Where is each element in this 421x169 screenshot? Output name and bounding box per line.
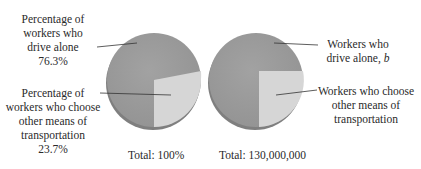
right-label-drive-alone: Workers who drive alone, b xyxy=(318,37,398,65)
left-total: Total: 100% xyxy=(128,149,184,161)
right-pie xyxy=(208,33,318,130)
right-total: Total: 130,000,000 xyxy=(219,149,306,161)
variable-b: b xyxy=(384,52,390,64)
left-pie-minor-slice xyxy=(154,78,201,127)
right-pie-minor-slice xyxy=(259,71,304,127)
left-drive-alone-percent: 76.3% xyxy=(8,54,98,68)
left-label-other-means: Percentage of workers who choose other m… xyxy=(0,86,108,156)
right-label-other-means: Workers who choose other means of transp… xyxy=(312,84,420,126)
left-pie xyxy=(97,33,201,130)
left-other-means-percent: 23.7% xyxy=(0,142,108,156)
left-label-drive-alone: Percentage of workers who drive alone 76… xyxy=(8,12,98,68)
